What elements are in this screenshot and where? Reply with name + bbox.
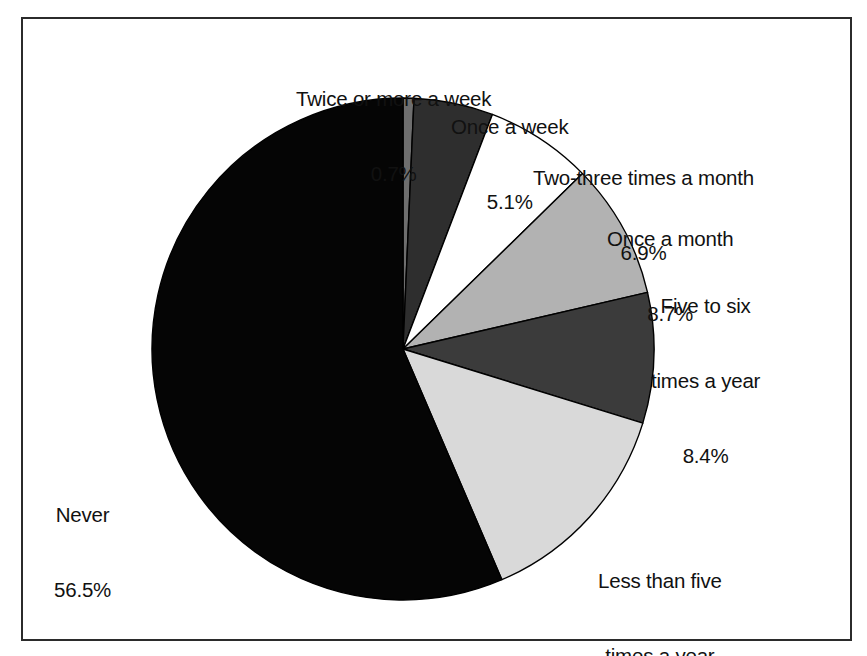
slice-label-five-to-six-times-a-year: Five to six times a year 8.4% xyxy=(651,243,760,518)
pie-chart-figure: Twice or more a week 0.7% Once a week 5.… xyxy=(0,0,867,656)
slice-label-name-line2: times a year xyxy=(651,368,760,393)
slice-label-less-than-five-times-a-year: Less than five times a year 13.8% xyxy=(598,518,722,656)
slice-label-never: Never 56.5% xyxy=(54,452,111,652)
slice-label-name: Never xyxy=(54,502,111,527)
slice-label-name-line2: times a year xyxy=(598,643,722,656)
slice-label-name-line1: Five to six xyxy=(651,293,760,318)
slice-label-percent: 56.5% xyxy=(54,577,111,602)
slice-label-name-line1: Less than five xyxy=(598,568,722,593)
slice-label-percent: 8.4% xyxy=(651,443,760,468)
